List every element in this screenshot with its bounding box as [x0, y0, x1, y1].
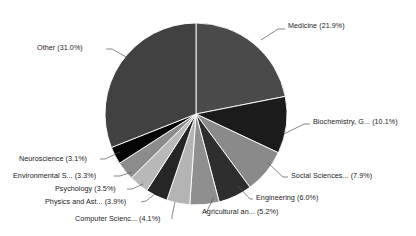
pie-chart-svg: Medicine (21.9%)Biochemistry, G... (10.1… [0, 0, 416, 236]
slice-label: Social Sciences... (7.9%) [291, 171, 372, 180]
slice-label: Physics and Ast... (3.9%) [45, 197, 126, 206]
slice-label: Psychology (3.5%) [55, 184, 116, 193]
pie-slices-group [105, 23, 287, 205]
slice-label: Biochemistry, G... (10.1%) [313, 117, 398, 126]
slice-label: Medicine (21.9%) [288, 21, 345, 30]
slice-label: Engineering (6.0%) [256, 193, 318, 202]
leader-line [141, 194, 155, 202]
leader-line [172, 202, 175, 219]
slice-label: Environmental S... (3.3%) [13, 171, 96, 180]
leader-line [261, 29, 285, 40]
leader-line [284, 124, 310, 134]
leader-line [106, 49, 128, 58]
pie-chart-figure: Medicine (21.9%)Biochemistry, G... (10.1… [0, 0, 416, 236]
slice-label: Agricultural an... (5.2%) [202, 207, 278, 216]
slice-label: Computer Scienc... (4.1%) [75, 214, 161, 223]
slice-label: Other (31.0%) [37, 43, 83, 52]
slice-label: Neuroscience (3.1%) [19, 154, 87, 163]
